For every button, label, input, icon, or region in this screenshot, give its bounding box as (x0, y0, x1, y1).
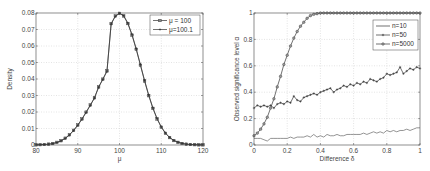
y-axis-label: Density (6, 67, 14, 89)
circle-marker (273, 98, 276, 101)
y-tick-label: 0.04 (22, 75, 35, 82)
circle-marker (269, 107, 272, 110)
y-tick-label: 0 (249, 141, 253, 148)
circle-marker (382, 43, 385, 46)
square-marker (159, 19, 162, 22)
y-tick-label: 0.06 (22, 42, 35, 49)
circle-marker (293, 37, 296, 40)
circle-marker (259, 128, 262, 131)
x-tick-label: 1 (418, 147, 422, 154)
y-tick-label: 0.6 (243, 62, 252, 69)
x-axis-label: Difference δ (320, 155, 355, 162)
x-tick-label: 0.2 (283, 147, 292, 154)
y-tick-label: 0.08 (22, 9, 35, 16)
y-tick-label: 0.02 (22, 108, 35, 115)
density-chart: 809010011012000.010.020.030.040.050.060.… (6, 9, 209, 163)
x-tick-label: 90 (74, 147, 82, 154)
circle-marker (283, 63, 286, 66)
y-tick-label: 0.2 (243, 115, 252, 122)
y-tick-label: 0.01 (22, 125, 35, 132)
x-tick-label: 100 (114, 147, 125, 154)
x-axis-label: μ (118, 155, 122, 163)
y-tick-label: 0 (31, 141, 35, 148)
circle-marker (276, 86, 279, 89)
x-tick-label: 0.8 (382, 147, 391, 154)
circle-marker (306, 17, 309, 20)
legend-label: n=50 (392, 31, 407, 38)
y-tick-label: 1 (249, 9, 253, 16)
legend: μ = 100μ=100.1 (150, 15, 200, 35)
y-tick-label: 0.4 (243, 88, 252, 95)
circle-marker (266, 116, 269, 119)
circle-marker (263, 123, 266, 126)
circle-marker (279, 75, 282, 78)
y-axis-label: Observed significance level α (233, 36, 241, 121)
x-tick-label: 0 (252, 147, 256, 154)
circle-marker (309, 14, 312, 17)
x-tick-label: 0.4 (316, 147, 325, 154)
x-tick-label: 0.6 (349, 147, 358, 154)
y-tick-label: 0.05 (22, 59, 35, 66)
x-tick-label: 110 (156, 147, 167, 154)
legend-label: n=5000 (392, 40, 414, 47)
figure: 809010011012000.010.020.030.040.050.060.… (0, 0, 430, 171)
circle-marker (312, 13, 315, 16)
legend-label: μ=100.1 (169, 26, 193, 34)
y-tick-label: 0.07 (22, 26, 35, 33)
legend-label: n=10 (392, 22, 407, 29)
circle-marker (299, 25, 302, 28)
circle-marker (296, 30, 299, 33)
circle-marker (289, 45, 292, 48)
significance-chart: 00.20.40.60.8100.20.40.60.81Difference δ… (233, 9, 422, 162)
legend-label: μ = 100 (169, 17, 191, 25)
circle-marker (286, 54, 289, 57)
circle-marker (256, 132, 259, 135)
y-tick-label: 0.8 (243, 36, 252, 43)
legend: n=10n=50n=5000 (373, 20, 418, 50)
x-tick-label: 120 (198, 147, 209, 154)
y-tick-label: 0.03 (22, 92, 35, 99)
circle-marker (303, 21, 306, 24)
